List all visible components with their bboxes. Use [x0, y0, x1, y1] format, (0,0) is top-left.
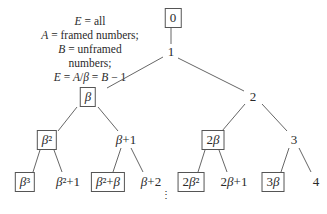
unframed-number-node: β+1	[116, 131, 136, 149]
framed-number-node: 2β²	[178, 172, 205, 192]
unframed-number-node: 2β+1	[221, 173, 248, 191]
framed-number-node: 3β	[262, 172, 285, 192]
continuation-dots: ⋮	[161, 192, 171, 197]
framed-number-node: β	[80, 87, 96, 107]
unframed-number-node: β+2	[141, 173, 161, 191]
framed-number-node: β³	[15, 172, 35, 192]
framed-number-node: 0	[165, 8, 182, 28]
unframed-number-node: 3	[291, 131, 298, 149]
unframed-number-node: β²+1	[56, 173, 80, 191]
framed-number-node: 2β	[202, 130, 225, 150]
framed-number-node: β²	[37, 130, 57, 150]
framed-number-node: β²+β	[91, 172, 125, 192]
unframed-number-node: 2	[250, 88, 257, 106]
unframed-number-node: 4	[313, 173, 320, 191]
unframed-number-node: 1	[168, 43, 175, 61]
